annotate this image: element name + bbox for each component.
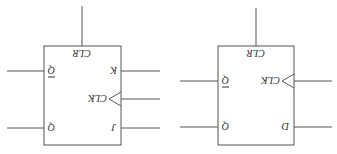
flipflop-diagram: CLR K CLK J Q Q CLR CLK D Q Q [0,0,337,154]
d-clk-triangle [282,74,294,88]
d-flipflop [180,8,332,145]
jk-clr-label: CLR [73,48,91,59]
d-clk-label: CLK [260,75,280,86]
d-q-label: Q [221,121,229,132]
jk-j-label: J [111,122,116,133]
d-d-label: D [281,121,290,132]
jk-q-label: Q [47,122,55,133]
d-qbar-label: Q [221,75,229,86]
d-clr-label: CLR [247,48,265,59]
jk-clk-label: CLK [87,93,107,104]
jk-flipflop [7,6,160,145]
jk-k-label: K [109,65,118,76]
jk-qbar-label: Q [47,65,55,76]
jk-clk-triangle [109,92,121,106]
